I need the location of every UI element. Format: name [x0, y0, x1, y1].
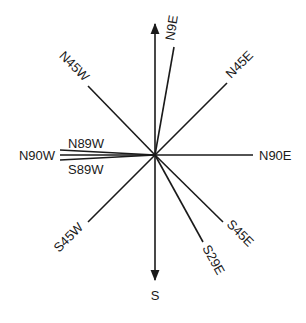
- compass-diagram: N9E N45E N45W N89W N90W S89W N90E S45W S…: [0, 0, 306, 323]
- label-n45w: N45W: [56, 48, 93, 85]
- label-s45e: S45E: [224, 217, 257, 250]
- label-n89w: N89W: [68, 136, 105, 151]
- label-s: S: [151, 288, 160, 303]
- label-n9e: N9E: [162, 14, 181, 42]
- label-n90e: N90E: [259, 148, 292, 163]
- label-s29e: S29E: [199, 242, 228, 277]
- ray-s29e: [155, 155, 203, 242]
- label-n90w: N90W: [19, 148, 56, 163]
- ray-s45e: [155, 155, 223, 222]
- label-n45e: N45E: [223, 47, 257, 81]
- label-s45w: S45W: [50, 219, 86, 255]
- label-s89w: S89W: [68, 162, 104, 177]
